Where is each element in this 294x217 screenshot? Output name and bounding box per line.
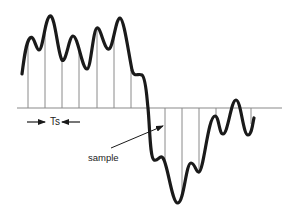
sample-pointer-arrow	[111, 126, 163, 148]
sampling-diagram	[0, 0, 294, 217]
signal-curve	[22, 16, 254, 203]
sample-lines	[28, 25, 251, 196]
ts-label: Ts	[50, 117, 60, 127]
sample-label: sample	[88, 153, 119, 163]
